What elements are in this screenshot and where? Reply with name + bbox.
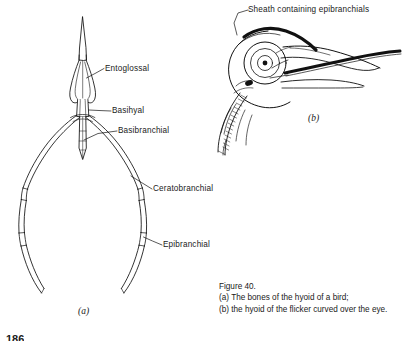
label-basibranchial: Basibranchial [118,126,169,136]
eye [244,42,286,84]
pupil [263,61,268,66]
label-basihyal: Basihyal [112,106,144,116]
entoglossal-bone [70,17,96,103]
panel-letter-b: (b) [308,113,319,123]
lower-mandible [281,80,364,88]
caption-line-b: (b) the hyoid of the flicker curved over… [219,304,411,315]
page-number: 186 [6,333,24,341]
right-hyoid-horn [86,116,147,294]
label-ceratobranchial: Ceratobranchial [153,184,213,194]
leader-epibranchial [144,237,163,245]
label-epibranchial: Epibranchial [163,240,210,250]
caption-title: Figure 40. [219,281,411,292]
label-entoglossal: Entoglossal [105,64,149,74]
caption-line-a: (a) The bones of the hyoid of a bird; [219,292,411,303]
leader-sheath [234,10,248,35]
leader-basibranchial [84,131,117,140]
figure-page: Entoglossal Basihyal Basibranchial Cerat… [0,0,414,341]
basihyal-bone [77,100,89,117]
flicker-head-drawing [218,10,401,155]
leader-ceratobranchial [131,176,152,189]
epibranchial-sheath [218,93,247,155]
figure-caption: Figure 40. (a) The bones of the hyoid of… [219,281,411,315]
basibranchial-bone [79,117,86,160]
tongue-shaft [285,51,401,76]
panel-letter-a: (a) [78,306,89,316]
hyoid-apparatus-drawing [19,17,162,293]
left-hyoid-horn [19,116,80,294]
label-sheath-containing-epibranchials: Sheath containing epibranchials [248,5,369,15]
leader-basihyal [89,110,111,111]
